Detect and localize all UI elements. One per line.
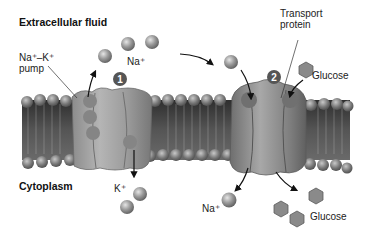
cytoplasm-label: Cytoplasm — [19, 181, 73, 192]
pump-label: Na⁺–K⁺ — [19, 52, 54, 63]
sodium-bottom-label: Na⁺ — [202, 203, 220, 214]
na-k-pump-protein — [72, 88, 152, 170]
glucose-top-label: Glucose — [312, 70, 349, 81]
potassium-label: K⁺ — [114, 183, 126, 194]
svg-text:1: 1 — [117, 74, 123, 85]
step-badge-1: 1 — [113, 72, 127, 86]
transport-protein-label: Transport — [280, 8, 322, 19]
glucose-bottom-label: Glucose — [310, 211, 347, 222]
sodium-ion-bottom — [222, 193, 237, 208]
step-badge-2: 2 — [267, 70, 281, 84]
extracellular-fluid-label: Extracellular fluid — [19, 17, 107, 28]
transport-protein — [230, 79, 306, 175]
sodium-ions-top — [98, 35, 238, 69]
transport-protein-label-line2: protein — [280, 19, 311, 30]
sodium-top-label: Na⁺ — [127, 56, 145, 67]
pump-label-line2: pump — [19, 63, 44, 74]
membrane-diagram: 1 2 — [0, 0, 367, 232]
svg-text:2: 2 — [271, 72, 277, 83]
